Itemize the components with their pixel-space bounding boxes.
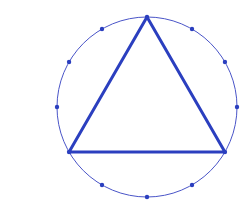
division-dot	[145, 195, 149, 199]
equilateral-triangle	[69, 17, 225, 152]
diagram-canvas	[0, 0, 248, 204]
division-dot	[190, 183, 194, 187]
division-dot	[67, 60, 71, 64]
circle	[57, 17, 237, 197]
division-dot	[223, 60, 227, 64]
division-dot	[235, 105, 239, 109]
division-dot	[100, 183, 104, 187]
division-dot	[55, 105, 59, 109]
division-points	[55, 15, 239, 199]
division-dot	[190, 27, 194, 31]
circle-triangle-figure	[0, 0, 248, 204]
division-dot	[100, 27, 104, 31]
